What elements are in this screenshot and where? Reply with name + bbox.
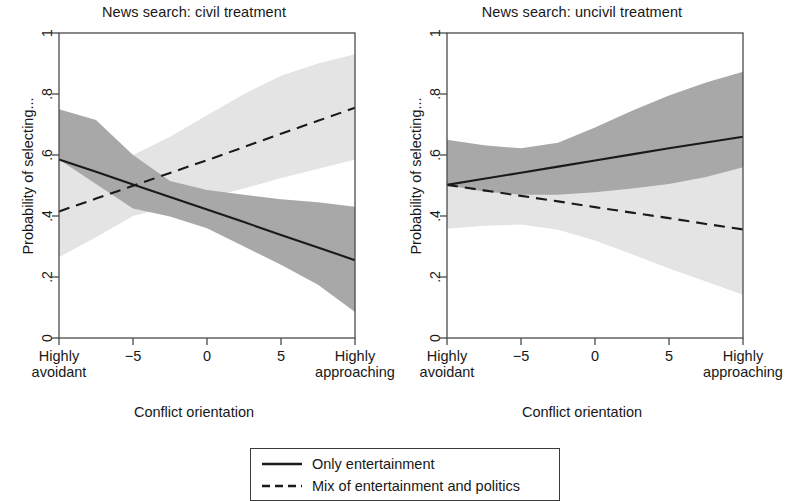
legend-solid-line-icon xyxy=(261,458,303,470)
plot-area-civil xyxy=(0,0,388,400)
x-tick-label-line1: 5 xyxy=(277,348,285,364)
x-axis-label-left: Conflict orientation xyxy=(0,404,388,420)
y-tick-label: 0 xyxy=(427,327,443,349)
plot-area-uncivil xyxy=(388,0,776,400)
legend-label-0: Only entertainment xyxy=(312,456,435,472)
x-tick-label-line1: −5 xyxy=(125,348,142,364)
legend-item-mix-entertainment-politics: Mix of entertainment and politics xyxy=(261,475,520,497)
y-tick-label: 1 xyxy=(427,22,443,44)
panel-uncivil-treatment: News search: uncivil treatment Probabili… xyxy=(388,0,776,440)
y-tick-label: .8 xyxy=(427,83,443,105)
y-tick-label: .6 xyxy=(39,144,55,166)
legend-dashed-line-icon xyxy=(261,480,303,492)
x-tick-label-line1: Highly xyxy=(723,348,763,364)
x-tick-label-line1: 0 xyxy=(591,348,599,364)
y-tick-label: .6 xyxy=(427,144,443,166)
x-tick-label-line2: avoidant xyxy=(32,364,87,380)
x-tick-label-line1: −5 xyxy=(513,348,530,364)
x-tick-label-line2: approaching xyxy=(703,364,783,380)
panel-civil-treatment: News search: civil treatment Probability… xyxy=(0,0,388,440)
legend-item-only-entertainment: Only entertainment xyxy=(261,453,435,475)
y-tick-label: .2 xyxy=(39,266,55,288)
x-tick-label-line1: Highly xyxy=(335,348,375,364)
legend-label-1: Mix of entertainment and politics xyxy=(312,478,520,494)
y-tick-label: 1 xyxy=(39,22,55,44)
y-tick-label: .2 xyxy=(427,266,443,288)
x-tick-label-line1: 5 xyxy=(665,348,673,364)
x-tick-label-line1: 0 xyxy=(203,348,211,364)
x-tick-label-line2: approaching xyxy=(315,364,395,380)
x-axis-label-right: Conflict orientation xyxy=(388,404,776,420)
legend: Only entertainment Mix of entertainment … xyxy=(250,448,560,501)
x-tick-label: Highlyapproaching xyxy=(683,348,787,380)
x-tick-label-line2: avoidant xyxy=(420,364,475,380)
y-tick-label: 0 xyxy=(39,327,55,349)
y-tick-label: .4 xyxy=(427,205,443,227)
y-tick-label: .4 xyxy=(39,205,55,227)
confidence-band-only-entertainment xyxy=(447,72,743,195)
y-tick-label: .8 xyxy=(39,83,55,105)
